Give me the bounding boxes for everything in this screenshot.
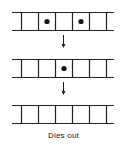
live-cell-dot (78, 19, 83, 24)
strip-generation-1 (12, 12, 114, 31)
arrow-down-icon (62, 82, 66, 95)
diagram-canvas (0, 0, 127, 147)
arrow-down-icon (62, 35, 66, 48)
strip-generation-3 (12, 105, 114, 124)
caption: Dies out (0, 131, 127, 140)
live-cell-dot (61, 66, 66, 71)
live-cell-dot (44, 19, 49, 24)
